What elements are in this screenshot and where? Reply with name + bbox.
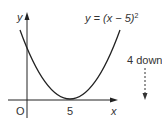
graph-figure: y y = (x − 5)2 4 down O 5 x — [0, 0, 162, 132]
parabola-curve — [20, 30, 120, 99]
origin-label: O — [16, 106, 25, 117]
y-axis-arrowhead-icon — [25, 12, 30, 20]
equation-text: y = (x − 5) — [85, 12, 135, 24]
equation-label: y = (x − 5)2 — [85, 13, 138, 24]
down-arrow-icon — [143, 93, 148, 100]
y-axis-label: y — [17, 12, 23, 23]
translation-label: 4 down — [127, 55, 162, 66]
x-tick-label-5: 5 — [67, 106, 73, 117]
x-axis-label: x — [111, 106, 117, 117]
equation-exponent: 2 — [135, 12, 139, 19]
x-axis-arrowhead-icon — [110, 98, 118, 103]
